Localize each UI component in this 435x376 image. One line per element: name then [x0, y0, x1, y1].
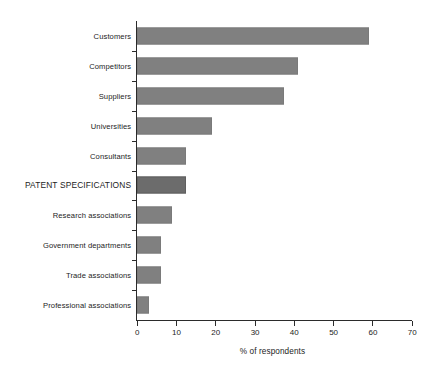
bar-universities [137, 117, 212, 134]
table-row: Suppliers [0, 81, 435, 111]
bar-patent-specifications [137, 177, 186, 194]
bar-trade-associations [137, 267, 161, 284]
x-axis-tick-label: 70 [408, 328, 417, 337]
bar-rows: Customers Competitors Suppliers Universi… [0, 21, 435, 320]
x-axis-tick [412, 321, 413, 326]
x-axis-line [136, 320, 412, 321]
x-axis-tick-label: 30 [251, 328, 260, 337]
bar-competitors [137, 57, 298, 74]
category-label-competitors: Competitors [89, 61, 131, 70]
x-axis-title: % of respondents [0, 347, 435, 356]
bar-research-associations [137, 207, 172, 224]
bar-suppliers [137, 87, 284, 104]
table-row: Trade associations [0, 260, 435, 290]
x-axis-tick-label: 50 [329, 328, 338, 337]
category-label-universities: Universities [91, 121, 131, 130]
bar-consultants [137, 147, 186, 164]
category-label-suppliers: Suppliers [99, 91, 132, 100]
bar-customers [137, 27, 369, 44]
x-axis-tick-label: 0 [135, 328, 139, 337]
bar-government-departments [137, 237, 161, 254]
x-axis-tick [372, 321, 373, 326]
x-axis-tick-label: 60 [368, 328, 377, 337]
x-axis-tick-label: 10 [172, 328, 181, 337]
category-label-patent-specifications: PATENT SPECIFICATIONS [25, 180, 131, 190]
table-row: Competitors [0, 51, 435, 81]
x-axis-tick-label: 40 [290, 328, 299, 337]
x-axis-title-text: % of respondents [240, 347, 305, 356]
category-label-professional-associations: Professional associations [43, 301, 131, 310]
x-axis-tick [137, 321, 138, 326]
x-axis-tick [294, 321, 295, 326]
category-label-trade-associations: Trade associations [66, 271, 131, 280]
bar-professional-associations [137, 297, 149, 314]
table-row: Consultants [0, 141, 435, 171]
x-axis-tick-label: 20 [211, 328, 220, 337]
category-label-consultants: Consultants [90, 151, 131, 160]
category-label-customers: Customers [94, 31, 132, 40]
x-axis-tick [255, 321, 256, 326]
table-row: PATENT SPECIFICATIONS [0, 171, 435, 201]
table-row: Professional associations [0, 290, 435, 320]
horizontal-bar-chart: Customers Competitors Suppliers Universi… [0, 0, 435, 376]
category-label-research-associations: Research associations [53, 211, 132, 220]
x-axis-tick [176, 321, 177, 326]
table-row: Customers [0, 21, 435, 51]
x-axis-tick [215, 321, 216, 326]
category-label-government-departments: Government departments [43, 241, 131, 250]
table-row: Government departments [0, 230, 435, 260]
table-row: Research associations [0, 200, 435, 230]
table-row: Universities [0, 111, 435, 141]
x-axis-tick [333, 321, 334, 326]
